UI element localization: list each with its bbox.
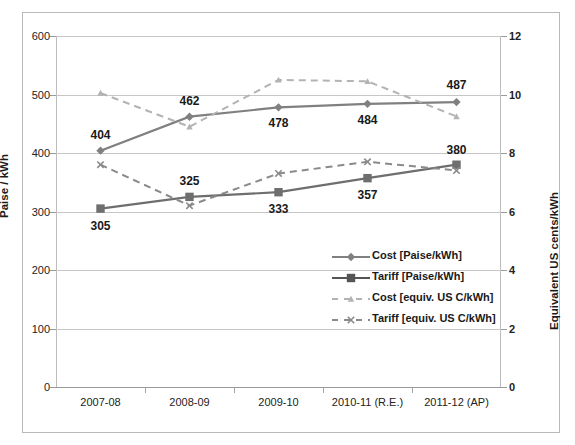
data-point-diamond [185, 113, 193, 121]
y2-tick [501, 153, 507, 154]
legend-item[interactable]: Tariff [Paise/kWh] [330, 265, 515, 286]
legend-item[interactable]: Cost [equiv. US C/kWh] [330, 286, 515, 307]
data-label: 462 [179, 94, 199, 108]
data-point-diamond [274, 103, 282, 111]
data-label: 380 [446, 143, 466, 157]
y-axis-right-labels: 12 10 8 6 4 2 0 [509, 36, 539, 387]
legend-key-cost-paise [330, 249, 372, 261]
data-label: 333 [268, 202, 288, 216]
y-axis-right-title: Equivalent US cents/kWh [548, 192, 560, 330]
series-line [101, 162, 457, 206]
chart-figure: 600 500 400 300 200 100 0 12 10 8 6 4 2 … [0, 0, 575, 445]
y2-tick [501, 329, 507, 330]
data-label: 357 [357, 188, 377, 202]
y2-tick-label: 6 [509, 206, 515, 218]
legend-key-icon [330, 272, 372, 284]
data-label: 404 [90, 128, 110, 142]
chart-legend: Cost [Paise/kWh] Tariff [Paise/kWh] Cost… [330, 244, 515, 328]
y2-tick [501, 212, 507, 213]
data-point-diamond [347, 252, 355, 260]
y2-tick [501, 387, 507, 388]
data-label: 325 [179, 174, 199, 188]
data-point-square [347, 273, 355, 281]
y2-tick [501, 36, 507, 37]
x-tick-label: 2011-12 (AP) [424, 396, 489, 408]
legend-key-icon [330, 251, 372, 263]
legend-key-tariff-paise [330, 270, 372, 282]
data-label: 484 [357, 113, 377, 127]
plot-area: 404462478484487305325333357380 [56, 36, 501, 387]
data-point-diamond [363, 100, 371, 108]
legend-item[interactable]: Cost [Paise/kWh] [330, 244, 515, 265]
y2-tick-label: 12 [509, 30, 521, 42]
data-point-square [274, 188, 282, 196]
y-axis-left-title: Paise / kWh [0, 154, 10, 218]
y2-tick-label: 10 [509, 89, 521, 101]
data-label: 478 [268, 116, 288, 130]
data-point-diamond [96, 146, 104, 154]
y-tick-label: 200 [32, 264, 50, 276]
x-tick-label: 2009-10 [258, 396, 298, 408]
y-tick-label: 300 [32, 206, 50, 218]
x-axis-labels: 2007-082008-092009-102010-11 (R.E.)2011-… [56, 387, 501, 417]
legend-key-tariff-cents [330, 312, 372, 324]
y-tick-label: 500 [32, 89, 50, 101]
x-tick-label: 2010-11 (R.E.) [332, 396, 403, 408]
legend-key-icon [330, 314, 372, 326]
y2-tick-label: 8 [509, 147, 515, 159]
legend-label: Tariff [equiv. US C/kWh] [372, 312, 496, 324]
legend-label: Cost [equiv. US C/kWh] [372, 291, 493, 303]
legend-label: Tariff [Paise/kWh] [372, 270, 464, 282]
data-label: 305 [90, 219, 110, 233]
y-axis-left-labels: 600 500 400 300 200 100 0 [22, 36, 50, 387]
data-label: 487 [446, 78, 466, 92]
y-tick-label: 400 [32, 147, 50, 159]
y-tick-label: 100 [32, 323, 50, 335]
y2-tick [501, 95, 507, 96]
data-point-square [96, 204, 104, 212]
x-axis-line [56, 387, 501, 388]
legend-item[interactable]: Tariff [equiv. US C/kWh] [330, 307, 515, 328]
legend-label: Cost [Paise/kWh] [372, 249, 462, 261]
legend-key-icon [330, 293, 372, 305]
y-tick-label: 600 [32, 30, 50, 42]
data-point-square [363, 174, 371, 182]
x-tick-label: 2008-09 [169, 396, 209, 408]
legend-key-cost-cents [330, 291, 372, 303]
data-point-square [185, 193, 193, 201]
x-tick-label: 2007-08 [80, 396, 120, 408]
y2-tick-label: 0 [509, 381, 515, 393]
data-point-diamond [452, 98, 460, 106]
